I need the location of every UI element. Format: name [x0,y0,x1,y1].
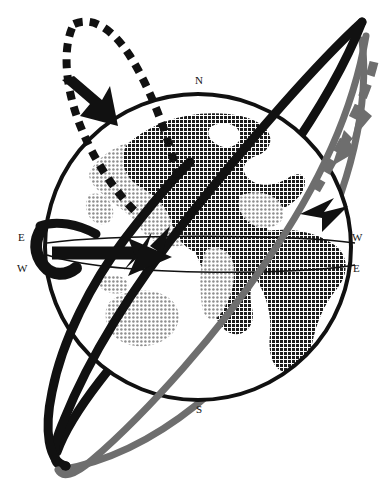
compass-label-north: N [195,74,203,86]
compass-label-east-left: E [18,231,25,243]
compass-label-west-right: W [352,231,363,243]
compass-label-south: S [196,403,203,415]
globe-orbit-figure: N S E W W E [0,0,385,492]
compass-label-east-right: E [353,262,360,274]
orbit-diagram-svg [0,0,385,492]
dashed-path-arrowhead-icon [62,76,118,126]
compass-label-west-left: W [17,262,28,274]
